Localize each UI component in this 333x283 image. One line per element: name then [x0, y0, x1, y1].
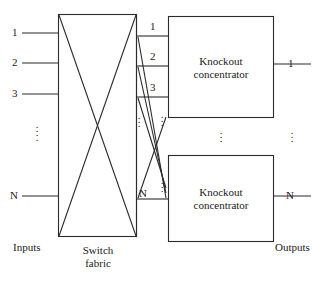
- concentrator-ellipsis: . . .: [217, 128, 225, 141]
- input-ellipsis: . . . .: [33, 122, 41, 139]
- input-ellipsis-dot-4: .: [33, 135, 41, 139]
- input-label-3: 3: [12, 87, 18, 99]
- bus-label-n: N: [139, 187, 147, 199]
- bus-label-3: 3: [150, 81, 156, 93]
- output-label-1: 1: [288, 57, 294, 69]
- switch-fabric-label: Switch fabric: [63, 244, 133, 271]
- output-ellipsis-dot-3: .: [288, 136, 296, 140]
- input-label-n: N: [10, 189, 18, 201]
- output-ellipsis: . . .: [288, 128, 296, 141]
- bus-ellipsis-n: . . .: [158, 178, 166, 191]
- inputs-group-label: Inputs: [13, 241, 41, 253]
- bus-ellipsis-right: . . .: [158, 112, 166, 125]
- bus-label-2: 2: [150, 50, 156, 62]
- knockout-concentrator-top-label: Knockout concentrator: [175, 55, 267, 82]
- bus-label-1: 1: [150, 20, 156, 32]
- concentrator-ellipsis-dot-3: .: [217, 136, 225, 140]
- output-label-n: N: [286, 189, 294, 201]
- input-label-2: 2: [12, 56, 18, 68]
- knockout-concentrator-top-line2: concentrator: [175, 68, 267, 81]
- knockout-concentrator-bottom-label: Knockout concentrator: [175, 186, 267, 213]
- input-label-1: 1: [12, 26, 18, 38]
- knockout-concentrator-top-line1: Knockout: [175, 55, 267, 68]
- switch-fabric-label-line2: fabric: [63, 257, 133, 270]
- bus-ellipsis-left: . . .: [135, 113, 143, 126]
- switch-fabric-label-line1: Switch: [63, 244, 133, 257]
- outputs-group-label: Outputs: [275, 241, 310, 253]
- knockout-concentrator-bottom-line2: concentrator: [175, 199, 267, 212]
- bus-ellipsis-n-dot-3: .: [158, 186, 166, 190]
- knockout-switch-diagram: 1 2 3 N . . . . Inputs Switch fabric 1 2…: [0, 0, 333, 283]
- bus-ellipsis-right-dot-3: .: [158, 120, 166, 124]
- knockout-concentrator-bottom-line1: Knockout: [175, 186, 267, 199]
- bus-ellipsis-left-dot-3: .: [135, 121, 143, 125]
